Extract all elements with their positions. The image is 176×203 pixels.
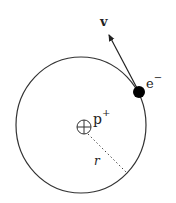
proton-charge: + [102, 107, 110, 118]
proton-label: p+ [93, 107, 110, 127]
proton-icon [77, 120, 91, 134]
electron-dot [133, 86, 145, 98]
electron-label: e− [146, 72, 162, 91]
velocity-label: v [99, 14, 108, 29]
radius-label: r [94, 154, 101, 168]
orbit-circle [16, 57, 146, 193]
velocity-arrow [109, 35, 138, 90]
bohr-atom-diagram: v e− p+ r [0, 0, 176, 203]
electron-charge: − [154, 72, 162, 83]
